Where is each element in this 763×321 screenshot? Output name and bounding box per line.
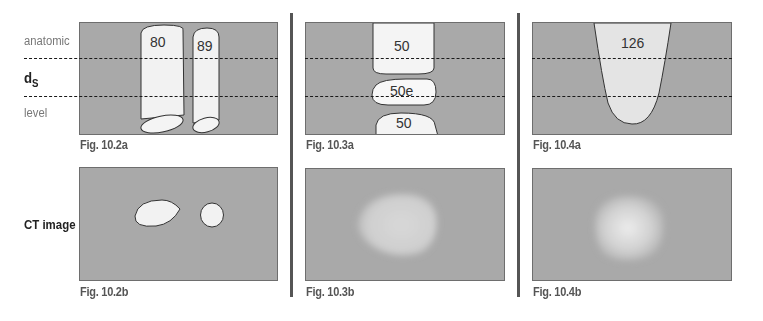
column-separator-2 [517,13,520,297]
label-ct-image: CT image [24,217,75,232]
ct-blurred-section [306,169,505,281]
caption-fig-10-2b: Fig. 10.2b [80,285,128,299]
label-anatomic: anatomic [24,34,70,48]
value-50-bottom: 50 [396,115,412,131]
figure-10-3a-panel: 50 50e 50 [305,22,505,135]
slice-boundary-top-2 [305,58,505,59]
ct-blurred-round-section [533,169,732,281]
value-126: 126 [621,35,645,51]
caption-fig-10-2a: Fig. 10.2a [80,138,128,152]
slice-boundary-bottom-1 [24,96,278,97]
value-89: 89 [197,38,213,54]
slice-boundary-top-3 [532,58,732,59]
label-ds-main: d [24,69,32,86]
value-50-top: 50 [394,38,410,54]
caption-fig-10-3a: Fig. 10.3a [306,138,354,152]
figure-10-4a-panel: 126 [532,22,732,135]
label-ds: dS [24,69,39,89]
slice-boundary-bottom-3 [532,96,732,97]
caption-fig-10-4b: Fig. 10.4b [533,285,581,299]
label-ds-sub: S [32,77,38,89]
slice-boundary-top-1 [24,58,278,59]
figure-10-3b-panel [305,168,505,281]
ct-cross-sections [80,168,278,281]
blurred-round-object [595,196,664,261]
teardrop-section [135,200,180,226]
figure-10-2a-panel: 80 89 [79,22,278,135]
slice-boundary-bottom-2 [305,96,505,97]
cylinders-illustration: 80 89 [80,23,278,135]
value-80: 80 [150,34,166,50]
column-separator-1 [290,13,293,297]
partial-volume-illustration: 50 50e 50 [306,23,505,135]
label-level: level [24,106,47,120]
blurred-object [358,194,437,256]
circle-section [201,203,224,227]
figure-10-4b-panel [532,168,732,281]
tapered-object-illustration: 126 [533,23,732,135]
caption-fig-10-4a: Fig. 10.4a [533,138,581,152]
figure-10-2b-panel [79,167,278,281]
caption-fig-10-3b: Fig. 10.3b [306,285,354,299]
